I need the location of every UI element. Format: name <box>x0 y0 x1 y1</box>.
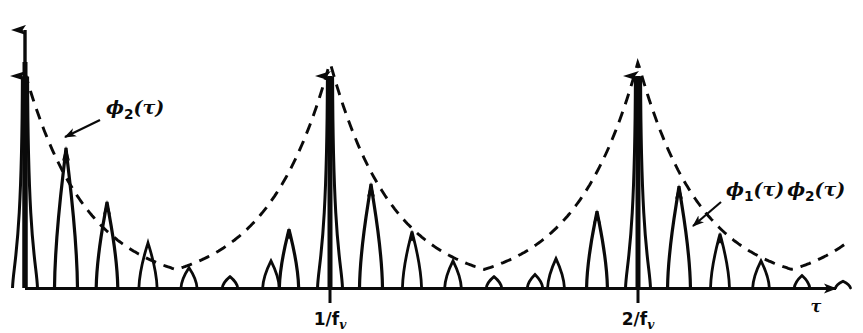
annotation-phi1-phi2-label: ϕ1(τ)ϕ2(τ) <box>726 178 845 204</box>
annotation-phi1-subscript: 1 <box>744 188 754 204</box>
tick-label-1fv-sub: v <box>339 318 347 332</box>
x-axis-ticks <box>330 289 638 303</box>
x-tick-labels: 1/fv 2/fv <box>314 309 655 332</box>
impulse-lobe <box>527 274 543 288</box>
annotation-phi2b-symbol: ϕ <box>787 178 805 200</box>
tick-label-2fv-sub: v <box>647 318 655 332</box>
impulse-lobe <box>96 202 118 288</box>
impulse-lobe <box>263 261 280 288</box>
impulse-lobe <box>181 268 197 288</box>
figure-container: 1/fv 2/fv τ ϕ2(τ) ϕ1(τ)ϕ2(τ) <box>0 0 863 333</box>
annotation-phi2-argument: (τ) <box>133 96 164 118</box>
annotation-phi1-symbol: ϕ <box>726 178 744 200</box>
impulse-arrow-tip <box>103 200 111 215</box>
annotation-phi2-subscript: 2 <box>124 106 134 122</box>
annotation-phi1-phi2: ϕ1(τ)ϕ2(τ) <box>693 178 845 226</box>
annotation-phi1-phi2-leader-line <box>693 202 721 226</box>
impulse-lobe <box>222 277 237 288</box>
annotation-phi2-leader-line <box>65 120 100 137</box>
impulse-lobe <box>445 261 462 288</box>
impulse-lobe <box>753 261 770 288</box>
tick-label-2fv: 2/fv <box>622 309 655 332</box>
impulse-lobe <box>139 243 157 288</box>
impulse-lobe <box>668 186 691 288</box>
autocorrelation-plot: 1/fv 2/fv τ ϕ2(τ) ϕ1(τ)ϕ2(τ) <box>0 0 863 333</box>
tick-label-2fv-main: 2/f <box>622 309 648 329</box>
annotation-phi2b-subscript: 2 <box>805 188 815 204</box>
annotation-phi2-symbol: ϕ <box>106 96 124 118</box>
tick-label-1fv-main: 1/f <box>314 309 340 329</box>
tick-label-1fv: 1/fv <box>314 309 347 332</box>
impulse-lobe <box>360 184 383 288</box>
impulse-lobe <box>835 281 850 288</box>
annotation-phi2-label: ϕ2(τ) <box>106 96 164 122</box>
annotation-phi2: ϕ2(τ) <box>65 96 164 137</box>
impulse-lobe <box>587 211 608 288</box>
x-axis-label-tau: τ <box>811 297 822 316</box>
annotation-phi1-argument: (τ) <box>753 178 784 200</box>
impulse-lobe <box>794 276 809 288</box>
impulse-lobe <box>548 259 565 288</box>
impulse-lobe <box>55 148 78 288</box>
annotation-phi2b-argument: (τ) <box>815 178 846 200</box>
impulse-lobe <box>486 277 501 288</box>
impulse-arrow-tip <box>593 209 601 224</box>
